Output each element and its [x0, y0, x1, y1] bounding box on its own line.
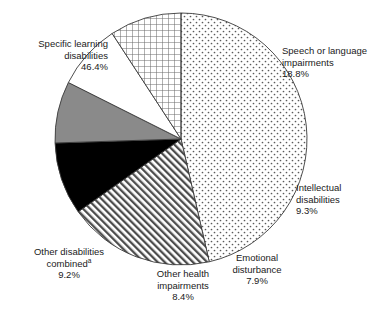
- slice-label-value: 46.4%: [4, 61, 108, 73]
- slice-label-line2: impairments: [140, 280, 226, 292]
- slice-label-value: 8.4%: [140, 291, 226, 303]
- slice-label-value: 18.8%: [282, 68, 382, 80]
- slice-label-line2: disturbance: [216, 264, 298, 276]
- slice-label-value: 7.9%: [216, 275, 298, 287]
- slice-label-line2-wrap: combineda: [14, 258, 124, 270]
- slice-label-other-disabilities-combined: Other disabilities combineda 9.2%: [14, 246, 124, 281]
- slice-label-line1: Other disabilities: [14, 246, 124, 258]
- slice-label-line2: disabilities: [296, 194, 382, 206]
- slice-label-value: 9.3%: [296, 205, 382, 217]
- slice-label-other-health-impairments: Other health impairments 8.4%: [140, 268, 226, 303]
- slice-label-speech-or-language-impairments: Speech or language impairments 18.8%: [282, 45, 382, 80]
- slice-label-line2: combined: [47, 258, 88, 269]
- slice-label-line1: Emotional: [216, 252, 298, 264]
- slice-label-specific-learning-disabilities: Specific learning disabilities 46.4%: [4, 38, 108, 73]
- slice-label-line2: impairments: [282, 57, 382, 69]
- footnote-marker-a: a: [88, 256, 92, 263]
- slice-label-line1: Specific learning: [4, 38, 108, 50]
- slice-label-line2: disabilities: [4, 50, 108, 62]
- slice-label-value: 9.2%: [14, 269, 124, 281]
- slice-label-line1: Other health: [140, 268, 226, 280]
- slice-label-intellectual-disabilities: Intellectual disabilities 9.3%: [296, 182, 382, 217]
- pie-chart: Specific learning disabilities 46.4% Spe…: [0, 0, 384, 320]
- slice-label-emotional-disturbance: Emotional disturbance 7.9%: [216, 252, 298, 287]
- slice-label-line1: Speech or language: [282, 45, 382, 57]
- slice-label-line1: Intellectual: [296, 182, 382, 194]
